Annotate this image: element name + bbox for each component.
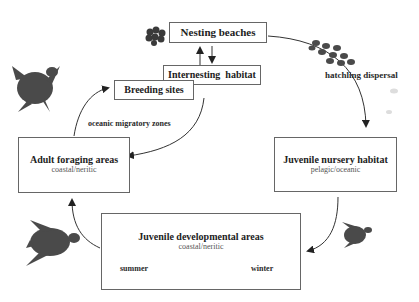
juvenile-developmental-sub: coastal/neritic	[102, 242, 300, 251]
breeding-sites-box: Breeding sites	[114, 80, 194, 100]
adult-foraging-box: Adult foraging areas coastal/neritic	[18, 137, 130, 193]
nesting-beaches-title: Nesting beaches	[170, 23, 266, 42]
breeding-sites-title: Breeding sites	[115, 81, 193, 99]
juvenile-nursery-title: Juvenile nursery habitat	[275, 154, 396, 165]
juvenile-developmental-box: Juvenile developmental areas coastal/ner…	[101, 213, 301, 290]
large-juvenile-turtle-icon	[26, 220, 80, 266]
juvenile-developmental-title: Juvenile developmental areas	[102, 231, 300, 242]
arrow-nesting-to-nursery	[268, 36, 366, 126]
adult-foraging-sub: coastal/neritic	[19, 165, 129, 174]
juvenile-turtle-icon	[342, 222, 372, 248]
eggs-icon	[146, 27, 166, 47]
summer-label: summer	[120, 264, 148, 273]
hatchlings-icon	[309, 40, 356, 66]
arrow-adult-to-breeding	[74, 88, 108, 136]
oceanic-migratory-label: oceanic migratory zones	[88, 119, 171, 128]
nesting-beaches-box: Nesting beaches	[169, 22, 267, 43]
arrow-nursery-to-developmental	[308, 197, 338, 251]
juvenile-nursery-sub: pelagic/oceanic	[275, 165, 396, 174]
faded-hatchlings-icon	[386, 89, 398, 115]
adult-turtle-icon	[12, 66, 60, 112]
juvenile-nursery-box: Juvenile nursery habitat pelagic/oceanic	[274, 137, 397, 192]
winter-label: winter	[251, 264, 273, 273]
adult-foraging-title: Adult foraging areas	[19, 154, 129, 165]
hatchling-dispersal-label: hatchling dispersal	[325, 70, 398, 80]
